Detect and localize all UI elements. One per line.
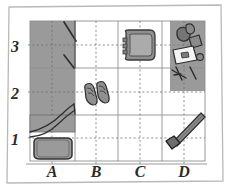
row-label-1: 1 (11, 131, 19, 148)
row-label-3: 3 (10, 38, 19, 55)
chair (123, 30, 155, 60)
column-label-a: A (46, 163, 58, 180)
column-label-b: B (90, 163, 102, 180)
row-labels: 3 2 1 (10, 38, 19, 148)
floor-plan-diagram: 3 2 1 A B C D (0, 0, 230, 188)
column-label-c: C (135, 163, 146, 180)
chair-arm-tabs (123, 38, 127, 54)
row-label-2: 2 (10, 85, 19, 102)
rug-mat (34, 138, 72, 159)
column-label-d: D (177, 163, 190, 180)
